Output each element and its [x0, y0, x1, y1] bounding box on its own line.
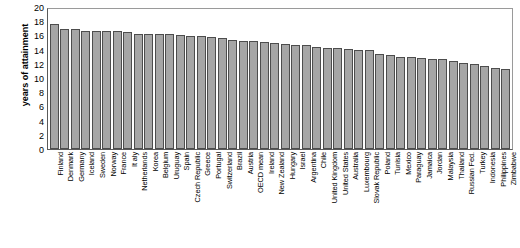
bar[interactable]: [396, 57, 405, 149]
x-axis-label-cell: Thailand: [449, 151, 458, 247]
bar[interactable]: [155, 34, 164, 149]
bar[interactable]: [92, 31, 101, 149]
bar[interactable]: [312, 47, 321, 149]
bar[interactable]: [438, 59, 447, 149]
y-axis-tick-label: 12: [20, 60, 44, 69]
x-axis-label-cell: United States: [333, 151, 342, 247]
bar[interactable]: [323, 48, 332, 150]
x-axis-label-cell: Austria: [238, 151, 247, 247]
x-axis-label-cell: Greece: [196, 151, 205, 247]
x-axis-label-cell: Russian Fed.: [460, 151, 469, 247]
bar[interactable]: [60, 29, 69, 149]
x-axis-tick-label: Zimbabwe: [510, 152, 517, 185]
x-axis-label-cell: Denmark: [59, 151, 68, 247]
bar[interactable]: [386, 55, 395, 149]
x-axis-label-cell: New Zealand: [270, 151, 279, 247]
bar[interactable]: [449, 61, 458, 149]
plot-area: [47, 8, 513, 150]
x-axis-label-cell: United Kingdom: [323, 151, 332, 247]
y-axis-tick-label: 0: [20, 146, 44, 155]
x-axis-label-cell: It aly: [122, 151, 131, 247]
y-axis-tick-label: 20: [20, 4, 44, 13]
x-axis-label-cell: Poland: [376, 151, 385, 247]
bar[interactable]: [291, 45, 300, 149]
x-axis-label-cell: Uruguay: [165, 151, 174, 247]
bar[interactable]: [407, 57, 416, 149]
bar[interactable]: [218, 38, 227, 149]
bar[interactable]: [501, 69, 510, 150]
y-axis-tick-label: 2: [20, 131, 44, 140]
bar[interactable]: [354, 50, 363, 149]
y-axis-tick-label: 8: [20, 89, 44, 98]
bar[interactable]: [470, 64, 479, 149]
x-axis-label-cell: Ireland: [260, 151, 269, 247]
x-axis-label-cell: Zimbabwe: [502, 151, 511, 247]
bar[interactable]: [491, 68, 500, 149]
x-axis-label-cell: Indonesia: [481, 151, 490, 247]
y-axis-tick-label: 18: [20, 18, 44, 27]
x-axis-label-cell: Luxembourg: [354, 151, 363, 247]
x-axis-label-cell: Argentina: [302, 151, 311, 247]
bar-series: [48, 9, 512, 149]
bar[interactable]: [239, 41, 248, 150]
x-axis-label-cell: France: [112, 151, 121, 247]
bar[interactable]: [50, 24, 59, 149]
x-axis-label-cell: Germany: [70, 151, 79, 247]
x-axis-label-cell: Czech Republic: [186, 151, 195, 247]
x-axis-label-cell: Paraguay: [407, 151, 416, 247]
bar[interactable]: [113, 31, 122, 149]
x-axis-label-cell: Hungary: [281, 151, 290, 247]
bar[interactable]: [375, 54, 384, 149]
bar-chart: years of attainment 20181614121086420 Fi…: [0, 0, 520, 248]
bar[interactable]: [134, 34, 143, 150]
x-axis-tick-labels: FinlandDenmarkGermanyIcelandSwedenNorway…: [47, 151, 513, 247]
bar[interactable]: [344, 49, 353, 149]
bar[interactable]: [260, 42, 269, 149]
bar[interactable]: [207, 37, 216, 149]
bar[interactable]: [102, 31, 111, 149]
bar[interactable]: [228, 40, 237, 149]
y-axis-tick-label: 16: [20, 32, 44, 41]
bar[interactable]: [186, 36, 195, 149]
x-axis-label-cell: Australia: [344, 151, 353, 247]
bar[interactable]: [197, 36, 206, 149]
x-axis-label-cell: Portugal: [207, 151, 216, 247]
bar[interactable]: [365, 50, 374, 149]
x-axis-label-cell: Switzerland: [217, 151, 226, 247]
bar[interactable]: [281, 44, 290, 149]
bar[interactable]: [459, 63, 468, 149]
bar[interactable]: [176, 35, 185, 149]
x-axis-label-cell: Malaysia: [439, 151, 448, 247]
bar[interactable]: [165, 34, 174, 149]
bar[interactable]: [428, 59, 437, 149]
x-axis-label-cell: Tunisia: [386, 151, 395, 247]
y-axis-tick-label: 14: [20, 46, 44, 55]
x-axis-label-cell: OECD mean: [249, 151, 258, 247]
bar[interactable]: [123, 32, 132, 149]
bar[interactable]: [71, 29, 80, 149]
bar[interactable]: [144, 34, 153, 149]
y-axis-tick-label: 10: [20, 75, 44, 84]
x-axis-label-cell: Mexico: [397, 151, 406, 247]
y-axis-tick-labels: 20181614121086420: [20, 8, 44, 150]
x-axis-label-cell: Norway: [101, 151, 110, 247]
bar[interactable]: [480, 66, 489, 149]
x-axis-label-cell: Sweden: [91, 151, 100, 247]
bar[interactable]: [417, 58, 426, 149]
x-axis-label-cell: Brazil: [228, 151, 237, 247]
bar[interactable]: [249, 41, 258, 149]
bar[interactable]: [270, 43, 279, 149]
bar[interactable]: [81, 31, 90, 149]
x-axis-label-cell: Philippines: [492, 151, 501, 247]
x-axis-label-cell: Jamaica: [418, 151, 427, 247]
x-axis-label-cell: Spain: [175, 151, 184, 247]
y-axis-tick-label: 6: [20, 103, 44, 112]
bar[interactable]: [333, 48, 342, 149]
x-axis-label-cell: Netherlands: [133, 151, 142, 247]
bar[interactable]: [302, 45, 311, 149]
y-axis-tick-label: 4: [20, 117, 44, 126]
x-axis-label-cell: Turkey: [470, 151, 479, 247]
x-axis-label-cell: Korea: [144, 151, 153, 247]
x-axis-label-cell: Chile: [312, 151, 321, 247]
x-axis-label-cell: Slovak Republic: [365, 151, 374, 247]
